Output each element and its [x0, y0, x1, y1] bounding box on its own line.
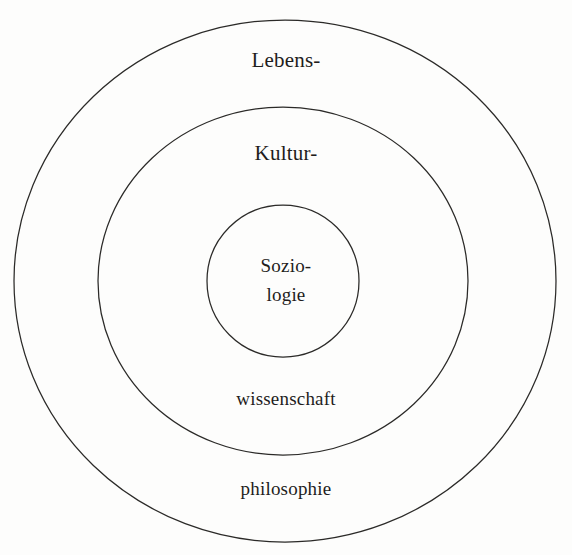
diagram-canvas: · · · · · · · · · Lebens- Kultur- Sozio-…: [0, 0, 572, 555]
concentric-circles-svg: [0, 0, 572, 555]
middle-circle-kulturwissenschaft: [98, 107, 468, 455]
outer-circle-lebensphilosophie: [14, 20, 556, 542]
inner-circle-soziologie: [207, 205, 359, 357]
